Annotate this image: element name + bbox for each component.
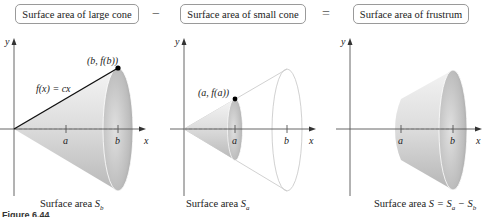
y-axis-label: y <box>340 36 346 47</box>
caption-text: Surface area <box>40 198 95 209</box>
caption-formula: S = S <box>429 198 452 209</box>
y-axis-arrow-icon <box>348 38 353 45</box>
function-label: f(x) = cx <box>36 83 71 95</box>
caption-frustum: Surface area S = Sa − Sb <box>374 198 476 212</box>
point-a-label: (a, f(a)) <box>198 87 230 99</box>
x-axis-label: x <box>475 135 481 146</box>
x-axis-label: x <box>143 135 149 146</box>
point-b-label: (b, f(b)) <box>87 55 119 67</box>
y-axis-label: y <box>4 36 10 47</box>
point-b-fb <box>115 65 120 70</box>
tick-a-label: a <box>232 135 237 146</box>
caption-subscript: a <box>246 204 250 212</box>
tick-b-label: b <box>284 135 289 146</box>
y-axis-label: y <box>174 36 180 47</box>
point-a-fa <box>233 97 238 102</box>
y-axis-arrow-icon <box>182 38 187 45</box>
diagram-canvas: y x a b (b, f(b)) f(x) = cx y x a b (a, … <box>0 0 483 217</box>
y-axis-arrow-icon <box>12 38 17 45</box>
caption-text: Surface area <box>374 198 429 209</box>
x-axis-label: x <box>308 135 314 146</box>
caption-large-cone: Surface area Sb <box>40 198 104 212</box>
x-axis-arrow-icon <box>309 127 316 132</box>
figure-label: Figure 6.44 <box>2 210 50 217</box>
panel-small-cone <box>170 38 316 196</box>
caption-subscript: b <box>100 204 104 212</box>
caption-small-cone: Surface area Sa <box>186 198 250 212</box>
tick-b-label: b <box>450 135 455 146</box>
tick-b-label: b <box>115 135 120 146</box>
caption-minus: − S <box>455 198 473 209</box>
panel-large-cone <box>0 38 146 196</box>
x-axis-arrow-icon <box>475 127 482 132</box>
caption-text: Surface area <box>186 198 241 209</box>
caption-subscript-b: b <box>473 204 477 212</box>
tick-a-label: a <box>63 135 68 146</box>
tick-a-label: a <box>398 135 403 146</box>
panel-frustum <box>336 38 482 196</box>
x-axis-arrow-icon <box>139 127 146 132</box>
